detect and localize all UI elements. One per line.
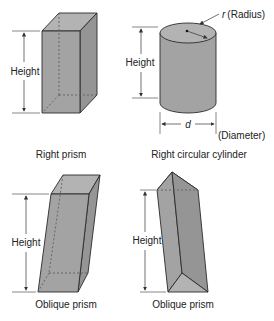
oblique-triangular-prism-caption: Oblique prism xyxy=(152,299,214,310)
right-prism-side-face xyxy=(80,13,97,113)
height-label: Height xyxy=(126,57,155,68)
cylinder-top-face xyxy=(160,23,216,43)
right-prism-front-face xyxy=(42,31,80,113)
radius-label: r(Radius) xyxy=(222,9,265,20)
solids-diagram: Height Right prism r(Radius) Height d (D… xyxy=(0,0,274,321)
height-label: Height xyxy=(133,235,162,246)
height-label: Height xyxy=(11,66,40,77)
height-label: Height xyxy=(12,237,41,248)
right-prism-figure: Height Right prism xyxy=(11,13,97,160)
right-circular-cylinder-figure: r(Radius) Height d (Diameter) Right circ… xyxy=(126,9,266,160)
cylinder-body xyxy=(160,33,216,113)
diameter-label: (Diameter) xyxy=(218,130,265,141)
oblique-rectangular-prism-figure: Height Oblique prism xyxy=(12,175,100,310)
radius-leader-arrow xyxy=(200,14,219,24)
radius-symbol: r xyxy=(222,9,226,20)
radius-text: (Radius) xyxy=(227,9,265,20)
right-prism-caption: Right prism xyxy=(36,149,87,160)
diameter-symbol: d xyxy=(185,119,191,130)
oblique-prism-caption: Oblique prism xyxy=(35,299,97,310)
oblique-triangular-prism-figure: Height Oblique prism xyxy=(133,172,214,310)
cylinder-caption: Right circular cylinder xyxy=(151,149,247,160)
